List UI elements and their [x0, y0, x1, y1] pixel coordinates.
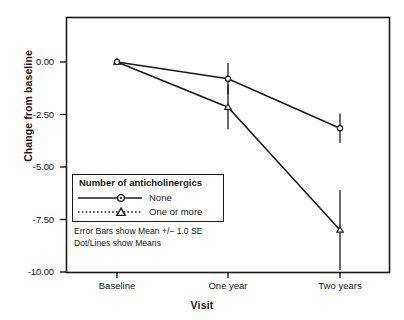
circle-marker: [114, 59, 119, 64]
x-axis-title: Visit: [0, 299, 404, 311]
chart-caption: Error Bars show Mean +/− 1.0 SE Dot/Line…: [74, 226, 203, 249]
x-tick-label-two-years: Two years: [295, 280, 385, 291]
dotted-line-swatch: [77, 205, 143, 219]
chart-legend: Number of anticholinergics None One or m…: [72, 174, 224, 222]
x-tick-label-baseline: Baseline: [72, 280, 162, 291]
legend-item-none: None: [77, 191, 223, 205]
solid-line-swatch: [77, 191, 143, 205]
legend-label-none: None: [149, 192, 172, 203]
y-axis-title: Change from baseline: [22, 16, 34, 196]
circle-marker: [225, 76, 230, 81]
y-tick-label: -10.00: [8, 266, 54, 277]
legend-title: Number of anticholinergics: [79, 177, 202, 188]
chart-plot-area: [0, 0, 404, 320]
legend-label-one-or-more: One or more: [149, 206, 202, 217]
circle-marker: [337, 126, 342, 131]
legend-item-one-or-more: One or more: [77, 205, 223, 219]
caption-error-bars: Error Bars show Mean +/− 1.0 SE: [74, 226, 203, 238]
x-tick-label-one-year: One year: [183, 280, 273, 291]
caption-dot-lines: Dot/Lines show Means: [74, 238, 203, 250]
chart-figure: 0.00 -2.50 -5.00 -7.50 -10.00 Baseline O…: [0, 0, 404, 320]
y-tick-label: -7.50: [8, 214, 54, 225]
